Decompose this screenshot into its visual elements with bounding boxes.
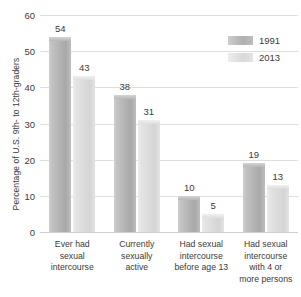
category-label-line: intercourse <box>166 251 237 263</box>
category-label-line: active <box>102 262 173 274</box>
category-label-line: intercourse <box>37 262 108 274</box>
y-axis-tick-10: 10 <box>24 190 35 201</box>
y-axis-tick-30: 30 <box>24 118 35 129</box>
bar-2013-group-4: 13 <box>267 185 289 232</box>
bar-2013-group-1: 43 <box>73 76 95 232</box>
bar-body <box>243 167 265 232</box>
category-label-line: Had sexual <box>166 239 237 251</box>
category-label-4: Had sexualintercoursewith 4 ormore perso… <box>231 239 301 285</box>
bar-value-label: 54 <box>55 23 66 34</box>
bar-value-label: 38 <box>119 81 130 92</box>
bar-value-label: 43 <box>79 62 90 73</box>
bar-value-label: 13 <box>272 171 283 182</box>
bar-value-label: 10 <box>184 182 195 193</box>
category-label-line: Ever had <box>37 239 108 251</box>
bar-body <box>267 189 289 232</box>
bar-body <box>73 80 95 232</box>
y-axis-tick-50: 50 <box>24 46 35 57</box>
category-axis-labels: Ever hadsexualintercourseCurrentlysexual… <box>40 239 298 297</box>
category-label-line: sexual <box>37 251 108 263</box>
category-label-line: with 4 or <box>231 262 301 274</box>
legend-label-1991: 1991 <box>259 35 280 46</box>
y-axis-tick-0: 0 <box>30 227 35 238</box>
bar-body <box>202 218 224 232</box>
legend-swatch-icon-1991 <box>228 36 253 45</box>
bar-body <box>114 99 136 232</box>
gridline-0: 0 <box>40 232 298 233</box>
y-axis-tick-40: 40 <box>24 82 35 93</box>
bar-value-label: 31 <box>143 106 154 117</box>
bar-chart: Percentage of U.S. 9th- to 12th-graders … <box>0 0 300 297</box>
category-label-line: Had sexual <box>231 239 301 251</box>
bar-1991-group-3: 10 <box>178 196 200 232</box>
y-axis-tick-60: 60 <box>24 10 35 21</box>
bar-body <box>138 124 160 232</box>
bar-1991-group-2: 38 <box>114 95 136 232</box>
legend-swatch-icon-2013 <box>228 53 253 62</box>
bar-1991-group-1: 54 <box>49 37 71 232</box>
legend: 1991 2013 <box>228 33 298 67</box>
y-axis-tick-20: 20 <box>24 154 35 165</box>
bar-value-label: 19 <box>248 149 259 160</box>
category-label-line: more persons <box>231 274 301 286</box>
category-label-1: Ever hadsexualintercourse <box>37 239 108 274</box>
category-label-line: sexually <box>102 251 173 263</box>
bar-1991-group-4: 19 <box>243 163 265 232</box>
category-label-line: Currently <box>102 239 173 251</box>
bar-2013-group-3: 5 <box>202 214 224 232</box>
legend-item-2013: 2013 <box>228 50 298 64</box>
bar-body <box>178 200 200 232</box>
category-label-2: Currentlysexuallyactive <box>102 239 173 274</box>
category-label-line: intercourse <box>231 251 301 263</box>
legend-label-2013: 2013 <box>259 52 280 63</box>
bar-2013-group-2: 31 <box>138 120 160 232</box>
category-label-3: Had sexualintercoursebefore age 13 <box>166 239 237 274</box>
bar-body <box>49 41 71 232</box>
bar-value-label: 5 <box>211 200 216 211</box>
y-axis-title: Percentage of U.S. 9th- to 12th-graders <box>11 34 21 234</box>
legend-item-1991: 1991 <box>228 33 298 47</box>
category-label-line: before age 13 <box>166 262 237 274</box>
